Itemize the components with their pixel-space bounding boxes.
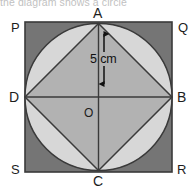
- diagram-canvas: the diagram shows a circle P Q R S A B C…: [0, 0, 192, 191]
- label-r: R: [177, 163, 186, 176]
- geometry-figure: [0, 0, 192, 191]
- label-a: A: [93, 6, 102, 20]
- label-b: B: [177, 90, 186, 104]
- label-p: P: [11, 21, 20, 34]
- dimension-label-5cm: 5 cm: [90, 53, 117, 66]
- label-o-center: O: [84, 107, 93, 119]
- label-d: D: [9, 90, 19, 104]
- label-q: Q: [178, 21, 188, 34]
- label-c: C: [93, 174, 103, 188]
- label-s: S: [11, 163, 20, 176]
